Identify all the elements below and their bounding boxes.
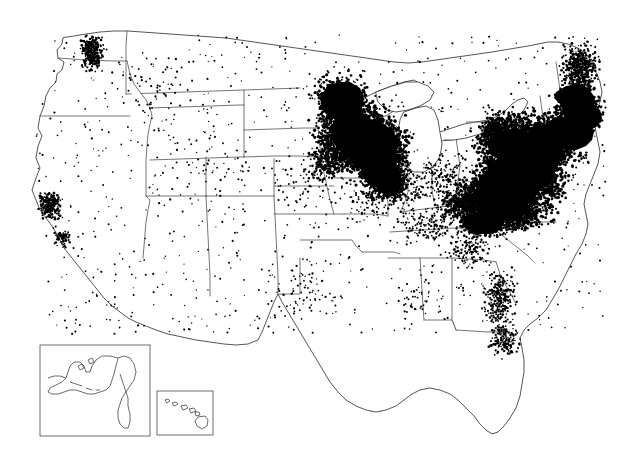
alaska-inset [40,345,150,436]
hawaii-inset-frame [157,391,213,435]
map-canvas [0,0,633,458]
dot-density-map [0,0,633,458]
hawaii-inset [157,391,213,435]
